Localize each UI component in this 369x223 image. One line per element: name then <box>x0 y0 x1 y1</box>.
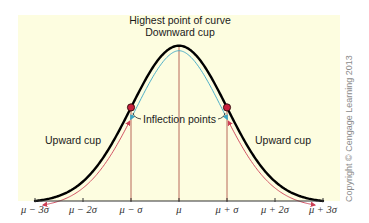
normal-curve-svg: μ − 3σμ − 2σμ − σμμ + σμ + 2σμ + 3σ High… <box>0 0 369 223</box>
x-tick-label: μ + σ <box>215 204 240 215</box>
x-tick-label: μ − 2σ <box>68 204 98 215</box>
inflection-point-marker <box>127 104 134 111</box>
x-tick-label: μ − σ <box>119 204 144 215</box>
x-tick-label: μ <box>175 204 181 215</box>
x-tick-label: μ − 3σ <box>20 204 50 215</box>
x-tick-label: μ + 2σ <box>260 204 290 215</box>
peak-label: Highest point of curve <box>129 14 231 26</box>
inflection-points-label: Inflection points <box>143 113 216 125</box>
copyright-notice: Copyright © Cengage Learning 2013 <box>344 55 354 202</box>
x-tick-label: μ + 3σ <box>308 204 338 215</box>
upward-cup-left-label: Upward cup <box>45 134 101 146</box>
downward-cup-label: Downward cup <box>145 26 215 38</box>
normal-curve-figure: μ − 3σμ − 2σμ − σμμ + σμ + 2σμ + 3σ High… <box>0 0 369 223</box>
upward-cup-right-label: Upward cup <box>255 134 311 146</box>
inflection-point-marker <box>223 104 230 111</box>
